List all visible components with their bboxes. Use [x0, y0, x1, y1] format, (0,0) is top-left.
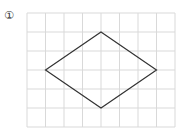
grid-diagram [0, 0, 183, 136]
grid-lines [27, 13, 175, 127]
